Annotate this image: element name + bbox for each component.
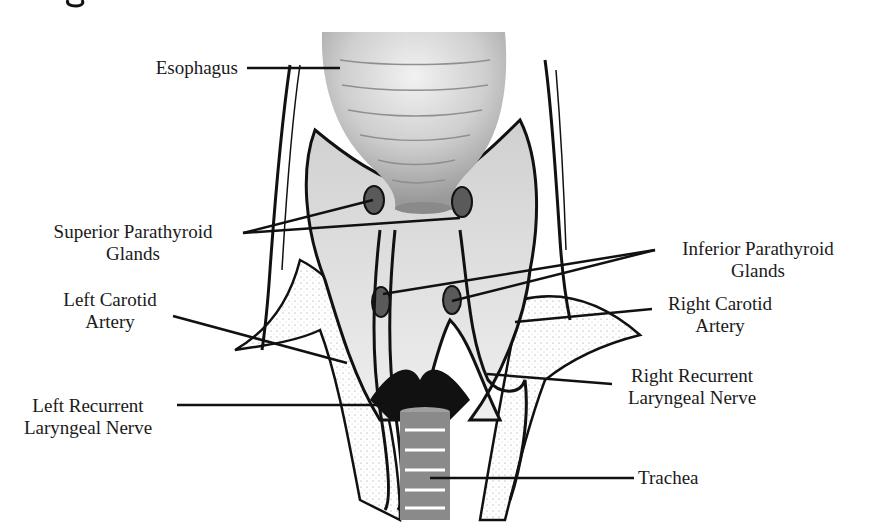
- label-trachea: Trachea: [638, 467, 738, 489]
- label-superior-parathyroid-glands: Superior Parathyroid Glands: [28, 221, 238, 265]
- label-left-carotid-artery: Left Carotid Artery: [40, 289, 180, 333]
- superior-right-parathyroid: [452, 187, 472, 217]
- superior-left-parathyroid: [364, 186, 384, 214]
- label-esophagus: Esophagus: [110, 57, 238, 79]
- label-right-carotid-artery: Right Carotid Artery: [655, 293, 785, 337]
- label-inferior-parathyroid-glands: Inferior Parathyroid Glands: [658, 238, 858, 282]
- parathyroid-anatomy-diagram: Esophagus Superior Parathyroid Glands Le…: [0, 0, 877, 530]
- title-fragment: [67, 0, 82, 6]
- trachea-shape: [400, 407, 450, 520]
- label-right-recurrent-laryngeal-nerve: Right Recurrent Laryngeal Nerve: [612, 365, 772, 409]
- label-left-recurrent-laryngeal-nerve: Left Recurrent Laryngeal Nerve: [8, 395, 168, 439]
